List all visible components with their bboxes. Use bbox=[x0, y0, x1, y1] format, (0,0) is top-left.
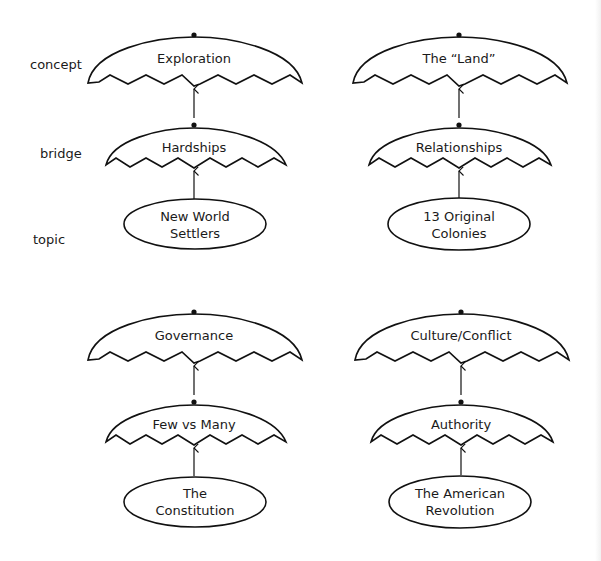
topic-ellipse bbox=[124, 199, 266, 249]
bridge-label: Authority bbox=[431, 417, 491, 432]
topic-node: The Constitution bbox=[124, 477, 266, 527]
topic-label-line1: The bbox=[182, 486, 207, 501]
unit-exploration: Exploration Hardships New World Settlers bbox=[88, 32, 302, 249]
bridge-label: Relationships bbox=[416, 140, 503, 155]
concept-label: The “Land” bbox=[421, 51, 495, 66]
concept-label: Governance bbox=[155, 328, 233, 343]
diagram-canvas: concept bridge topic Exploration Hardshi… bbox=[0, 0, 601, 561]
topic-ellipse bbox=[389, 476, 531, 528]
concept-node: Culture/Conflict bbox=[355, 309, 569, 363]
bridge-node: Authority bbox=[371, 399, 553, 445]
level-label-concept: concept bbox=[30, 57, 82, 72]
concept-label: Culture/Conflict bbox=[410, 328, 511, 343]
page-edge-shade bbox=[595, 0, 601, 561]
topic-label-line2: Constitution bbox=[156, 503, 235, 518]
concept-node: The “Land” bbox=[353, 32, 567, 86]
connector-dot bbox=[456, 32, 461, 37]
topic-label-line1: New World bbox=[160, 209, 230, 224]
connector-dot bbox=[191, 309, 196, 314]
bridge-node: Hardships bbox=[106, 122, 286, 168]
topic-node: 13 Original Colonies bbox=[388, 198, 530, 250]
bridge-label: Hardships bbox=[162, 140, 227, 155]
level-label-topic: topic bbox=[33, 232, 65, 247]
bridge-node: Relationships bbox=[369, 122, 551, 168]
connector-dot bbox=[458, 399, 463, 404]
connector-dot bbox=[191, 32, 196, 37]
connector-dot bbox=[191, 399, 196, 404]
topic-node: New World Settlers bbox=[124, 199, 266, 249]
unit-culture-conflict: Culture/Conflict Authority The American … bbox=[355, 309, 569, 528]
topic-node: The American Revolution bbox=[389, 476, 531, 528]
topic-label-line2: Settlers bbox=[170, 226, 220, 241]
unit-the-land: The “Land” Relationships 13 Original Col… bbox=[353, 32, 567, 250]
unit-governance: Governance Few vs Many The Constitution bbox=[88, 309, 302, 527]
topic-label-line1: 13 Original bbox=[423, 209, 495, 224]
topic-ellipse bbox=[124, 477, 266, 527]
connector-dot bbox=[456, 122, 461, 127]
topic-label-line2: Revolution bbox=[426, 503, 495, 518]
bridge-label: Few vs Many bbox=[152, 417, 236, 432]
connector-dot bbox=[458, 309, 463, 314]
level-label-bridge: bridge bbox=[40, 146, 82, 161]
bridge-node: Few vs Many bbox=[106, 399, 286, 445]
topic-label-line2: Colonies bbox=[431, 226, 486, 241]
connector-dot bbox=[191, 122, 196, 127]
topic-ellipse bbox=[388, 198, 530, 250]
concept-label: Exploration bbox=[157, 51, 231, 66]
level-labels: concept bridge topic bbox=[30, 57, 82, 247]
topic-label-line1: The American bbox=[414, 486, 505, 501]
concept-node: Governance bbox=[88, 309, 302, 363]
concept-node: Exploration bbox=[88, 32, 302, 86]
